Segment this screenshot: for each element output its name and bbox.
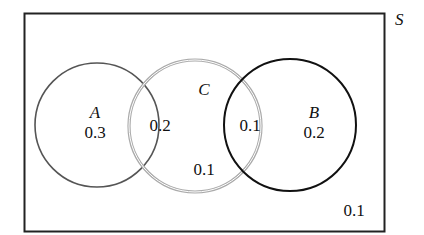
universe-label: S bbox=[395, 10, 404, 29]
intersection-a-c-value: 0.2 bbox=[149, 116, 170, 135]
universe-rectangle bbox=[25, 14, 385, 232]
set-c-label: C bbox=[198, 80, 210, 99]
set-a-label: A bbox=[89, 103, 101, 122]
set-a-only-value: 0.3 bbox=[84, 123, 105, 142]
outside-value: 0.1 bbox=[343, 201, 364, 220]
set-b-only-value: 0.2 bbox=[303, 123, 324, 142]
set-c-only-value: 0.1 bbox=[193, 160, 214, 179]
intersection-c-b-value: 0.1 bbox=[239, 116, 260, 135]
venn-diagram: S A 0.3 0.2 C 0.1 0.1 B 0.2 0.1 bbox=[0, 0, 424, 235]
set-b-label: B bbox=[309, 103, 320, 122]
